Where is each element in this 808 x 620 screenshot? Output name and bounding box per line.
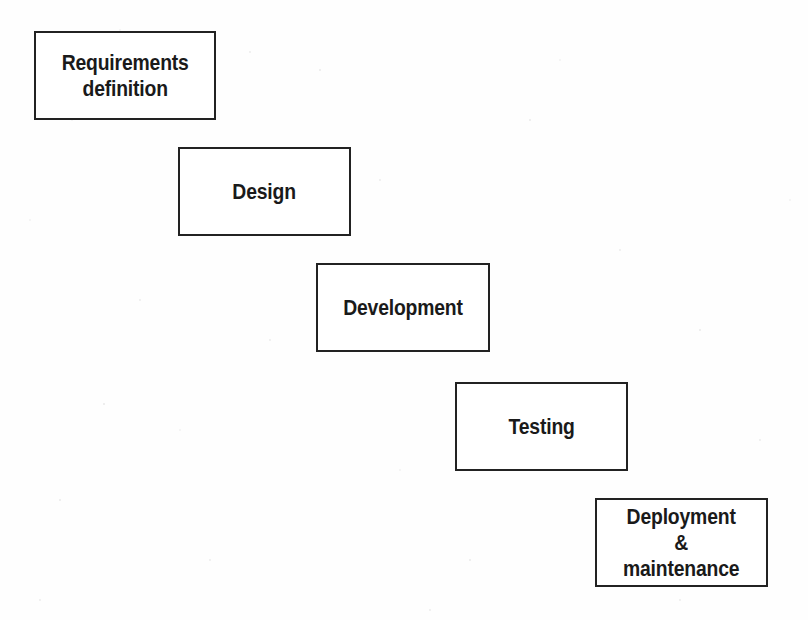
stage-box-testing[interactable]: Testing: [455, 382, 628, 471]
stage-box-design[interactable]: Design: [178, 147, 351, 236]
stage-label-requirements-definition: Requirements definition: [62, 50, 189, 102]
stage-box-development[interactable]: Development: [316, 263, 490, 352]
stage-box-requirements-definition[interactable]: Requirements definition: [34, 31, 216, 120]
waterfall-diagram-canvas: Requirements definition Design Developme…: [0, 0, 808, 620]
stage-label-design: Design: [233, 179, 296, 205]
stage-box-deployment-and-maintenance[interactable]: Deployment & maintenance: [595, 498, 768, 587]
stage-label-development: Development: [343, 295, 463, 321]
stage-label-testing: Testing: [508, 414, 574, 440]
stage-label-deployment-and-maintenance: Deployment & maintenance: [623, 504, 739, 582]
